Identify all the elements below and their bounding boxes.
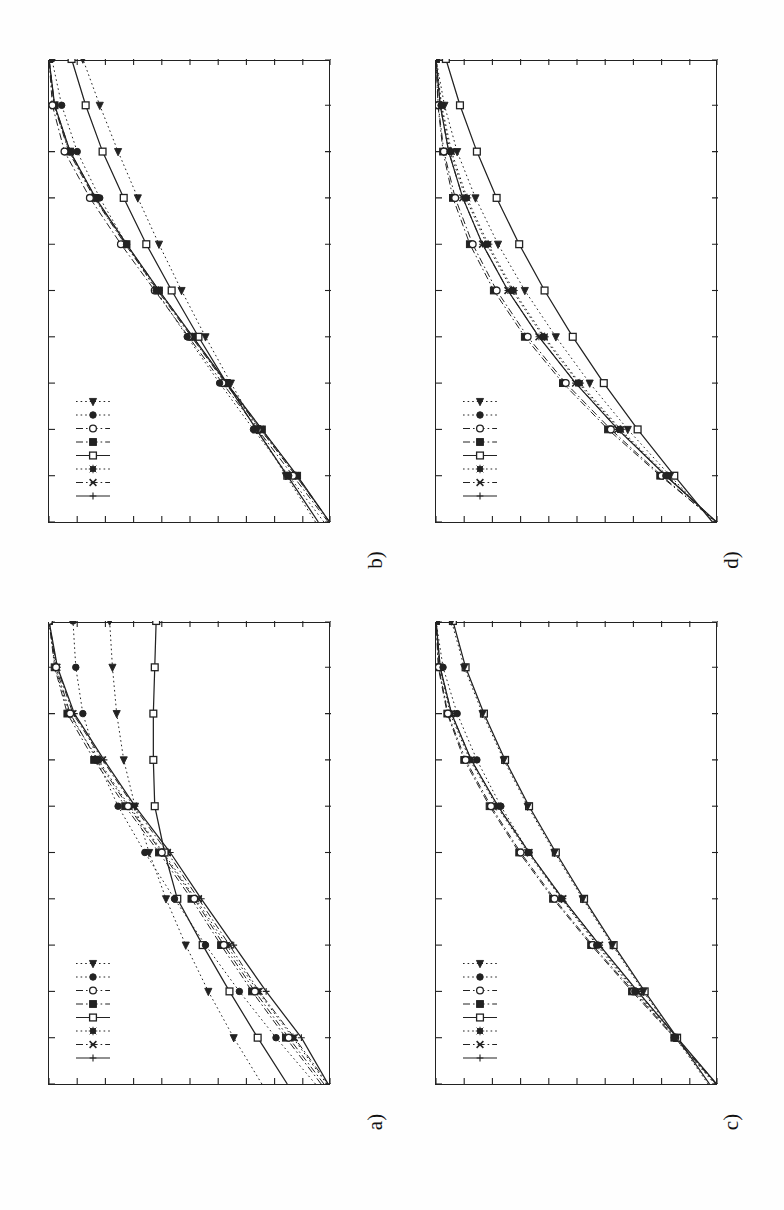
series-filled-circle (70, 621, 316, 1084)
panel-a-canvas (49, 621, 331, 1084)
series-open-square (68, 59, 318, 522)
panel-label-d: d) (716, 545, 746, 575)
series-open-square (450, 621, 710, 1084)
panel-c-rotated-plot (435, 622, 717, 1085)
panel-d-axes (435, 60, 717, 523)
legend (463, 398, 497, 499)
series-left-triangle (106, 621, 262, 1084)
panel-d-canvas (436, 59, 718, 522)
panel-c (435, 622, 717, 1085)
panel-b (48, 60, 330, 523)
legend (463, 960, 497, 1061)
legend (76, 960, 110, 1061)
series-left-triangle (448, 621, 708, 1084)
panel-b-axes (48, 60, 330, 523)
panel-a-rotated-plot (48, 622, 330, 1085)
panel-a (48, 622, 330, 1085)
panel-d-rotated-plot (435, 60, 717, 523)
panel-label-b: b) (360, 545, 390, 575)
panel-label-c: c) (716, 1107, 746, 1137)
panel-c-axes (435, 622, 717, 1085)
panel-label-a: a) (360, 1107, 390, 1137)
legend (76, 398, 110, 499)
panel-c-canvas (436, 621, 718, 1084)
figure-page: b) d) a) c) (0, 0, 784, 1210)
panel-d (435, 60, 717, 523)
panel-b-canvas (49, 59, 331, 522)
panel-b-rotated-plot (48, 60, 330, 523)
panel-a-axes (48, 622, 330, 1085)
